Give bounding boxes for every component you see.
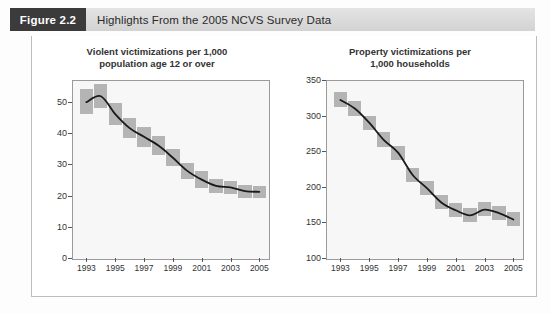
charts-panel: Violent victimizations per 1,000 populat… xyxy=(31,36,537,297)
chart-property-victimizations: Property victimizations per 1,000 househ… xyxy=(284,36,536,296)
figure-header: Figure 2.2 Highlights From the 2005 NCVS… xyxy=(10,8,535,31)
figure-container: Figure 2.2 Highlights From the 2005 NCVS… xyxy=(0,0,551,314)
figure-number-label: Figure 2.2 xyxy=(20,14,76,26)
figure-number-badge: Figure 2.2 xyxy=(10,8,86,31)
trend-line xyxy=(32,36,284,296)
figure-title: Highlights From the 2005 NCVS Survey Dat… xyxy=(86,14,331,26)
figure-title-strip: Highlights From the 2005 NCVS Survey Dat… xyxy=(86,8,535,31)
chart-violent-victimizations: Violent victimizations per 1,000 populat… xyxy=(32,36,282,296)
trend-line xyxy=(284,36,536,296)
